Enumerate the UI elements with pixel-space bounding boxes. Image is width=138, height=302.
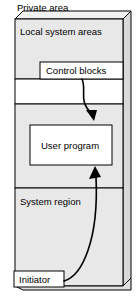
label-initiator: Initiator [19,274,50,285]
diagram-root: Private area Local system areas System r… [0,0,138,302]
region-unlabeled-gap [15,79,123,104]
block-right-face [123,11,131,286]
label-system-region: System region [20,196,81,207]
label-control-blocks: Control blocks [46,65,106,76]
label-local-system-areas: Local system areas [20,26,102,37]
private-area-diagram: Private area Local system areas System r… [0,0,138,302]
diagram-title: Private area [17,2,69,13]
label-user-program: User program [41,140,99,151]
